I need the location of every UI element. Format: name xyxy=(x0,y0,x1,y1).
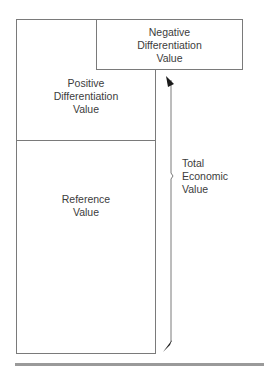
total-line-3: Value xyxy=(182,183,228,196)
total-line-2: Economic xyxy=(182,170,228,183)
arrowhead-up-icon xyxy=(166,76,174,87)
total-line-1: Total xyxy=(182,157,228,170)
total-economic-value-label: Total Economic Value xyxy=(182,157,228,196)
arrow-shaft xyxy=(171,80,173,342)
